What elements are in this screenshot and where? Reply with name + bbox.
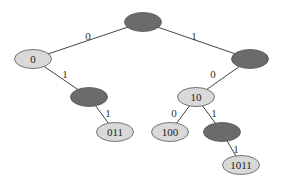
edge-label: 0 — [85, 30, 91, 42]
edge-label: 1 — [233, 143, 239, 155]
node-n1 — [232, 50, 269, 69]
edge-label: 0 — [171, 107, 177, 119]
node-n01 — [71, 88, 108, 107]
node-label: 011 — [107, 126, 123, 138]
nodes-layer: 0100111001011 — [15, 13, 269, 175]
internal-node-ellipse — [125, 13, 162, 32]
edge-label: 1 — [211, 107, 217, 119]
edge-root-n0: 0 — [33, 22, 143, 59]
node-n011: 011 — [97, 123, 134, 142]
edge-label: 1 — [105, 107, 111, 119]
edges-layer: 01101011 — [33, 22, 250, 165]
node-root — [125, 13, 162, 32]
node-n100: 100 — [152, 123, 189, 142]
node-n10: 10 — [178, 88, 215, 107]
internal-node-ellipse — [232, 50, 269, 69]
node-label: 1011 — [230, 159, 252, 171]
binary-trie-diagram: 01101011 0100111001011 — [0, 0, 284, 189]
node-n1011: 1011 — [223, 156, 260, 175]
internal-node-ellipse — [204, 123, 241, 142]
node-label: 10 — [191, 91, 203, 103]
edge-label: 0 — [210, 68, 216, 80]
edge-label: 1 — [62, 68, 68, 80]
node-n0: 0 — [15, 50, 52, 69]
internal-node-ellipse — [71, 88, 108, 107]
node-n101 — [204, 123, 241, 142]
node-label: 100 — [162, 126, 179, 138]
edge-root-n1: 1 — [143, 22, 250, 59]
node-label: 0 — [30, 53, 36, 65]
edge-label: 1 — [191, 30, 197, 42]
